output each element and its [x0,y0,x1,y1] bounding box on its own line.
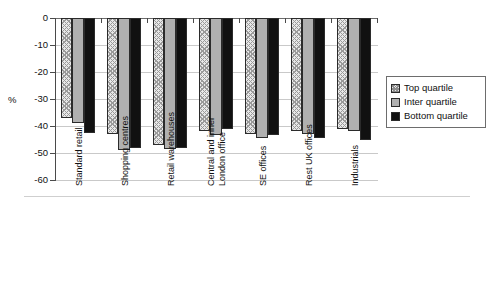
y-axis-tick [50,180,56,181]
category-label: Central and innerLondon office [206,117,227,186]
y-axis-tick-label: -50 [18,148,48,158]
bar [348,18,360,131]
bar [245,18,257,134]
bar [291,18,303,131]
category-label: Retail warehouses [166,112,177,186]
category-label-line: Rest UK offices [304,124,315,186]
bar [302,18,314,134]
y-axis-tick-label: -10 [18,40,48,50]
category-label-line: Industrials [350,145,361,186]
y-axis-tick-label: -20 [18,67,48,77]
bar [256,18,268,138]
y-axis-tick-label: -40 [18,121,48,131]
category-label-line: London office [217,117,228,186]
bar [130,18,142,148]
figure-bottom-rule [24,196,470,197]
category-label: Shopping centres [120,116,131,186]
gray-swatch-icon [391,98,400,107]
category-label: SE offices [258,146,269,186]
legend-label: Inter quartile [404,97,457,107]
legend-item-top-quartile: Top quartile [391,81,481,95]
y-axis-tick-label: -30 [18,94,48,104]
bar [107,18,119,134]
bar [84,18,96,133]
category-label: Rest UK offices [304,124,315,186]
y-axis-tick-label-wrap: -50 [14,148,48,158]
y-axis-tick-label-wrap: -20 [14,67,48,77]
bar [61,18,73,118]
bar [314,18,326,138]
y-axis-tick-label-wrap: -40 [14,121,48,131]
bar [222,18,234,129]
category-label-line: Standard retail [74,127,85,186]
bar [268,18,280,135]
legend-item-bottom-quartile: Bottom quartile [391,109,481,123]
black-swatch-icon [391,112,400,121]
legend-label: Bottom quartile [404,111,468,121]
y-axis-tick-label: -60 [18,175,48,185]
bar-chart-figure: % 0-10-20-30-40-50-60 Standard retailSho… [0,0,493,290]
y-axis-tick-label-wrap: -10 [14,40,48,50]
y-axis-tick-label-wrap: 0 [14,13,48,23]
chart-legend: Top quartile Inter quartile Bottom quart… [386,76,486,128]
category-label: Standard retail [74,127,85,186]
legend-label: Top quartile [404,83,453,93]
y-axis-tick-label-wrap: -60 [14,175,48,185]
category-label-line: Retail warehouses [166,112,177,186]
bar [337,18,349,129]
bar [153,18,165,145]
bar [360,18,372,140]
category-label-line: Central and inner [206,117,217,186]
category-label-line: Shopping centres [120,116,131,186]
category-label-line: SE offices [258,146,269,186]
bar [199,18,211,131]
bar [72,18,84,123]
hatched-swatch-icon [391,84,400,93]
legend-item-inter-quartile: Inter quartile [391,95,481,109]
y-axis-tick-label-wrap: -30 [14,94,48,104]
category-label: Industrials [350,145,361,186]
bar [176,18,188,148]
y-axis-tick-label: 0 [18,13,48,23]
